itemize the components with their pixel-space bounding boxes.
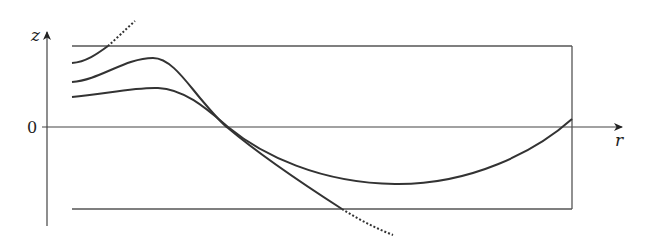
middle-curve-dotted-extension — [342, 209, 393, 235]
middle-curve — [72, 58, 342, 209]
origin-label: 0 — [27, 118, 37, 137]
diagram-figure: z r 0 — [0, 0, 654, 247]
diagram-canvas: z r 0 — [0, 0, 654, 247]
lower-curve — [72, 88, 572, 184]
r-axis-label: r — [615, 130, 624, 150]
upper-curve-dotted-extension — [108, 21, 135, 46]
upper-curve — [72, 46, 108, 63]
z-axis-label: z — [30, 25, 41, 45]
